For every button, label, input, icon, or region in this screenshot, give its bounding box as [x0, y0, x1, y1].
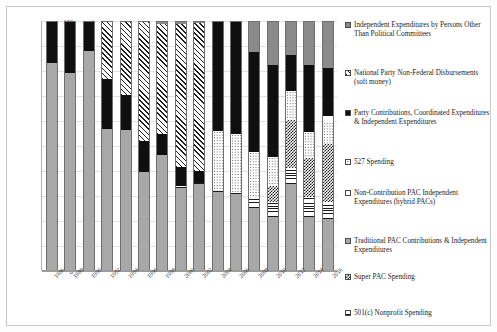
bar-column[interactable] — [156, 21, 168, 271]
bar-column[interactable] — [248, 21, 260, 271]
bar-segment[interactable] — [286, 22, 296, 55]
bar-segment[interactable] — [304, 217, 314, 270]
bar-segment[interactable] — [65, 73, 75, 270]
bar-segment[interactable] — [323, 22, 333, 68]
stacked-bar[interactable] — [138, 21, 150, 271]
bar-segment[interactable] — [286, 91, 296, 120]
stacked-bar[interactable] — [175, 21, 187, 271]
bar-segment[interactable] — [304, 158, 314, 196]
stacked-bar[interactable] — [267, 21, 279, 271]
bar-segment[interactable] — [213, 22, 223, 131]
bar-segment[interactable] — [157, 134, 167, 155]
stacked-bar[interactable] — [156, 21, 168, 271]
bar-segment[interactable] — [286, 168, 296, 184]
stacked-bar[interactable] — [101, 21, 113, 271]
bar-segment[interactable] — [304, 197, 314, 217]
bar-segment[interactable] — [286, 184, 296, 270]
bar-column[interactable] — [212, 21, 224, 271]
stacked-bar[interactable] — [230, 21, 242, 271]
bar-column[interactable] — [267, 21, 279, 271]
bar-segment[interactable] — [304, 22, 314, 65]
bar-segment[interactable] — [249, 52, 259, 152]
bar-segment[interactable] — [121, 95, 131, 130]
bar-column[interactable] — [230, 21, 242, 271]
bar-segment[interactable] — [323, 202, 333, 219]
bar-segment[interactable] — [102, 22, 112, 79]
bar-segment[interactable] — [139, 22, 149, 141]
stacked-bar[interactable] — [46, 21, 58, 271]
bar-segment[interactable] — [323, 122, 333, 143]
bar-segment[interactable] — [47, 63, 57, 270]
bar-column[interactable] — [64, 21, 76, 271]
stacked-bar[interactable] — [212, 21, 224, 271]
bar-column[interactable] — [285, 21, 297, 271]
bar-segment[interactable] — [268, 186, 278, 202]
legend-item[interactable]: Super PAC Spending — [345, 273, 491, 282]
stacked-bar[interactable] — [285, 21, 297, 271]
bar-segment[interactable] — [102, 129, 112, 270]
bar-segment[interactable] — [304, 132, 314, 158]
bar-segment[interactable] — [268, 157, 278, 186]
bar-column[interactable] — [193, 21, 205, 271]
bar-segment[interactable] — [231, 194, 241, 270]
bar-segment[interactable] — [268, 65, 278, 157]
legend-item[interactable]: Non-Contribution PAC Independent Expendi… — [345, 189, 491, 206]
bar-segment[interactable] — [176, 167, 186, 186]
bar-segment[interactable] — [84, 51, 94, 270]
bar-segment[interactable] — [286, 120, 296, 168]
stacked-bar[interactable] — [322, 21, 334, 271]
bar-segment[interactable] — [157, 155, 167, 270]
bar-segment[interactable] — [286, 55, 296, 91]
bar-segment[interactable] — [47, 22, 57, 63]
bar-segment[interactable] — [176, 188, 186, 270]
bar-column[interactable] — [175, 21, 187, 271]
bar-segment[interactable] — [268, 22, 278, 65]
bar-segment[interactable] — [176, 24, 186, 167]
bar-segment[interactable] — [194, 184, 204, 270]
stacked-bar[interactable] — [64, 21, 76, 271]
bar-column[interactable] — [120, 21, 132, 271]
bar-segment[interactable] — [139, 172, 149, 270]
stacked-bar[interactable] — [120, 21, 132, 271]
bar-segment[interactable] — [249, 152, 259, 198]
stacked-bar[interactable] — [83, 21, 95, 271]
bar-segment[interactable] — [121, 22, 131, 95]
bar-segment[interactable] — [249, 208, 259, 270]
bar-segment[interactable] — [194, 171, 204, 183]
bar-column[interactable] — [138, 21, 150, 271]
bar-segment[interactable] — [65, 22, 75, 73]
bar-segment[interactable] — [323, 219, 333, 270]
bar-column[interactable] — [83, 21, 95, 271]
bar-column[interactable] — [322, 21, 334, 271]
bar-segment[interactable] — [84, 22, 94, 51]
bar-column[interactable] — [46, 21, 58, 271]
stacked-bar[interactable] — [248, 21, 260, 271]
bar-segment[interactable] — [249, 22, 259, 52]
stacked-bar[interactable] — [303, 21, 315, 271]
legend-item[interactable]: 501(c) Nonprofit Spending — [345, 309, 491, 318]
bar-column[interactable] — [101, 21, 113, 271]
bar-segment[interactable] — [249, 198, 259, 208]
bar-segment[interactable] — [231, 22, 241, 134]
bar-segment[interactable] — [213, 192, 223, 270]
bar-column[interactable] — [303, 21, 315, 271]
legend-item[interactable]: National Party Non-Federal Disbursements… — [345, 69, 491, 86]
bar-segment[interactable] — [139, 141, 149, 172]
legend-item[interactable]: Independent Expenditures by Persons Othe… — [345, 21, 491, 38]
legend-swatch-icon — [345, 159, 351, 165]
bar-segment[interactable] — [157, 24, 167, 133]
bar-segment[interactable] — [194, 23, 204, 171]
bar-segment[interactable] — [268, 202, 278, 217]
bar-segment[interactable] — [323, 68, 333, 116]
bar-segment[interactable] — [304, 65, 314, 132]
legend-item[interactable]: Party Contributions, Coordinated Expendi… — [345, 109, 491, 126]
stacked-bar[interactable] — [193, 21, 205, 271]
bar-segment[interactable] — [268, 217, 278, 270]
bar-segment[interactable] — [213, 131, 223, 191]
legend-item[interactable]: Traditional PAC Contributions & Independ… — [345, 237, 491, 254]
bar-segment[interactable] — [231, 134, 241, 194]
bar-segment[interactable] — [121, 130, 131, 270]
legend-item[interactable]: 527 Spending — [345, 158, 491, 167]
bar-segment[interactable] — [102, 79, 112, 129]
bar-segment[interactable] — [323, 144, 333, 202]
